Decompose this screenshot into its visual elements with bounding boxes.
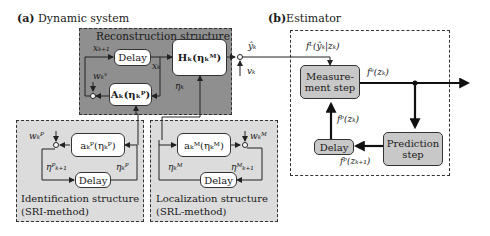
w-p-label: wₖᴾ	[29, 131, 44, 141]
measurement-line1: Measure-	[306, 71, 354, 82]
prediction-line1: Prediction	[387, 138, 439, 149]
identification-caption: Identification structure (SRI-method)	[21, 193, 139, 218]
w-m-label: wₖᴹ	[250, 131, 267, 141]
h-matrix-block: Hₖ(ηₖᴹ)	[172, 39, 227, 76]
w-x-label: wₖˣ	[93, 71, 107, 81]
a-p-block: aₖᴾ(ηₖᴾ)	[71, 133, 125, 157]
eta-m-next-label: ηᴹₖ₊₁	[231, 162, 254, 172]
panel-b-title-text: Estimator	[286, 12, 341, 25]
localization-caption-line2: (SRL-method)	[156, 206, 268, 219]
a-m-block: aₖᴹ(ηₖᴹ)	[177, 133, 231, 157]
prior-label: fᵖ(zₖ)	[337, 114, 359, 124]
identification-caption-line1: Identification structure	[21, 193, 139, 206]
x-label: xₖ	[152, 61, 160, 71]
likelihood-label: fᴸ(ŷₖ|zₖ)	[306, 41, 340, 51]
measurement-line2: ment step	[305, 82, 356, 93]
eta-m-label: ηₖᴹ	[168, 162, 182, 172]
v-label: vₖ	[247, 66, 255, 76]
eta-p-next-label: ηᴾₖ₊₁	[46, 162, 67, 172]
measurement-step-block: Measure- ment step	[300, 65, 360, 99]
delay-block-estimator: Delay	[314, 139, 354, 155]
panel-b-title: (b)Estimator	[268, 12, 341, 25]
prediction-step-block: Prediction step	[383, 132, 443, 166]
a-matrix-block: Aₖ(ηₖᴾ)	[109, 83, 152, 106]
x-next-label: xₖ₊₁	[93, 43, 110, 53]
output-sum-node	[238, 55, 243, 60]
sum-node	[91, 94, 96, 99]
delay-block-reconstruction: Delay	[114, 49, 151, 66]
delay-block-identification: Delay	[75, 172, 111, 188]
prior-next-label: fᵖ(zₖ₊₁)	[340, 156, 370, 166]
identification-caption-line2: (SRI-method)	[21, 206, 139, 219]
prediction-line2: step	[402, 149, 423, 160]
eta-label: ηₖ	[175, 81, 184, 91]
panel-b-prefix: (b)	[268, 12, 286, 25]
localization-caption: Localization structure (SRL-method)	[156, 193, 268, 218]
eta-p-label: ηₖᴾ	[116, 162, 129, 172]
y-hat-label: ŷₖ	[248, 41, 256, 51]
posterior-label: fᵉ(zₖ)	[367, 67, 389, 77]
delay-block-localization: Delay	[200, 172, 237, 188]
localization-caption-line1: Localization structure	[156, 193, 268, 206]
